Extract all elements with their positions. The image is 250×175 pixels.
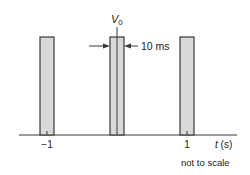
arrow-right-icon: [103, 44, 110, 49]
pulse-right: [180, 37, 194, 135]
pulse-amplitude-label: V0: [111, 13, 123, 27]
not-to-scale-note: not to scale: [181, 157, 230, 168]
pulse-width-label: 10 ms: [141, 40, 170, 52]
tick-label-minus-1: −1: [41, 139, 53, 150]
pulse-center: [110, 27, 124, 135]
pulse-left: [40, 37, 54, 135]
arrow-left-icon: [124, 44, 131, 49]
x-axis-label: t (s): [215, 139, 232, 150]
tick-label-plus-1: 1: [184, 139, 190, 150]
pulse-train-diagram: V0 10 ms −1 1 t (s) not to scale: [0, 0, 250, 175]
